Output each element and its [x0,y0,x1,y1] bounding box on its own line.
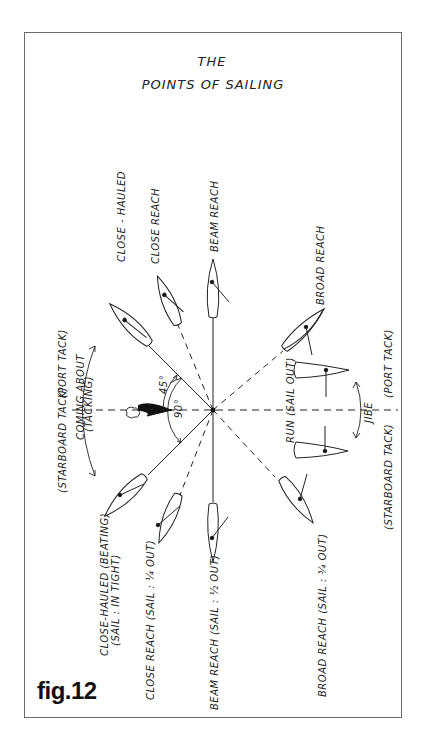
port-tack-right-label: (PORT TACK) [383,329,394,398]
broad-reach-lower-sail [300,474,307,499]
points-of-sailing-figure: THE POINTS OF SAILING [0,0,428,750]
tacking-label: (TACKING) [83,376,94,432]
figure-caption: fig.12 [37,677,97,705]
beam-reach-lower-sail [212,517,228,538]
angle-45-label: 45° [158,375,169,394]
wind-arrow-icon [138,403,172,416]
boat-close-reach-upper [152,272,188,327]
angle-90-label: 90° [173,399,184,418]
sailing-diagram: THE POINTS OF SAILING [0,0,428,750]
boat-run-lower [294,426,348,458]
broad-reach-lower-label: BROAD REACH (SAIL : ¾ OUT) [317,533,328,697]
close-reach-lower-mast [156,523,160,527]
starboard-tack-right-label: (STARBOARD TACK) [383,424,394,530]
center-point [211,408,216,413]
title-line-1: THE [198,54,227,69]
beam-reach-lower-label: BEAM REACH (SAIL : ½ OUT) [209,554,220,710]
starboard-tack-left-label: (STARBOARD TACK) [57,387,68,493]
broad-reach-upper-line [213,351,283,410]
close-reach-upper-line [178,325,213,410]
jibe-label: JIBE [363,402,374,425]
close-hauled-lower-label: CLOSE-HAULED (BEATING) [99,513,110,656]
close-hauled-upper-label: CLOSE - HAULED [116,171,127,262]
broad-reach-upper-mast [304,325,308,329]
close-reach-lower-label: CLOSE REACH (SAIL : ¼ OUT) [145,540,156,700]
boat-beam-reach-upper [207,259,229,318]
beam-reach-upper-label: BEAM REACH [209,181,220,252]
boat-close-reach-lower [153,492,184,546]
close-hauled-lower-mast [118,493,122,497]
cloud-icon [126,407,140,418]
boat-broad-reach-upper [280,305,328,353]
boat-broad-reach-lower [276,474,318,526]
broad-reach-lower-mast [298,497,302,501]
broad-reach-lower-line [213,410,275,477]
beam-reach-lower-mast [210,536,214,540]
close-reach-lower-line [180,410,213,495]
boat-run-upper [294,362,349,397]
title-line-2: POINTS OF SAILING [142,77,285,92]
boat-close-hauled-upper [105,299,155,349]
close-reach-upper-label: CLOSE REACH [150,188,161,264]
broad-reach-upper-label: BROAD REACH [315,225,326,305]
close-hauled-lower-sub-label: (SAIL : IN TIGHT) [110,554,121,646]
